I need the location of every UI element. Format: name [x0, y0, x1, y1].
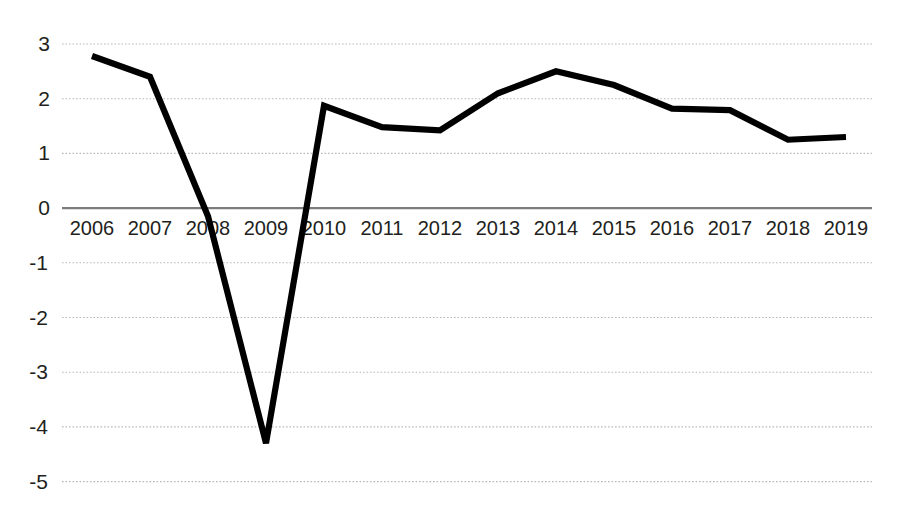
x-axis-tick-label: 2007	[128, 217, 173, 239]
y-axis-tick-label: -2	[29, 306, 48, 329]
y-axis-tick-label: 0	[38, 196, 50, 219]
x-axis-tick-label: 2014	[534, 217, 579, 239]
y-axis-tick-label: -3	[29, 360, 48, 383]
y-axis-tick-label: 2	[38, 87, 50, 110]
x-axis-tick-label: 2018	[766, 217, 811, 239]
x-axis-tick-label: 2009	[244, 217, 289, 239]
x-axis-tick-label: 2012	[418, 217, 463, 239]
x-axis-tick-label: 2011	[360, 217, 403, 239]
x-axis-tick-label: 2017	[708, 217, 753, 239]
x-axis-tick-label: 2019	[824, 217, 869, 239]
y-axis-tick-label: 1	[38, 141, 50, 164]
x-axis-tick-label: 2010	[302, 217, 347, 239]
y-axis-tick-label: -4	[29, 415, 48, 438]
chart-background	[0, 0, 904, 527]
line-chart: 3210-1-2-3-4-5 2006200720082009201020112…	[0, 0, 904, 527]
chart-container: 3210-1-2-3-4-5 2006200720082009201020112…	[0, 0, 904, 527]
y-axis-tick-label: -1	[29, 251, 48, 274]
x-axis-tick-label: 2006	[70, 217, 115, 239]
x-axis-tick-label: 2016	[650, 217, 695, 239]
x-axis-tick-label: 2015	[592, 217, 637, 239]
y-axis-tick-label: 3	[38, 32, 50, 55]
y-axis-tick-label: -5	[29, 470, 48, 493]
x-axis-tick-label: 2013	[476, 217, 521, 239]
